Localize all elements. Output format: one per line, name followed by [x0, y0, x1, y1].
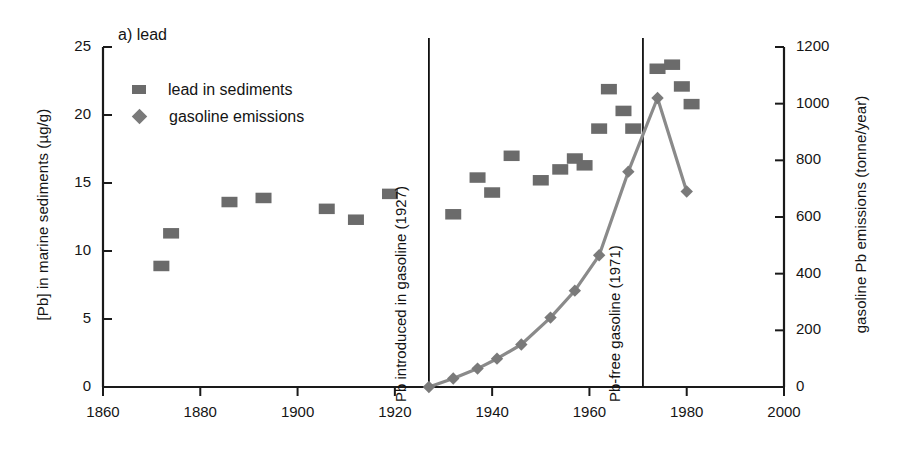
y-tick-label-right: 1200	[796, 37, 852, 54]
y-tick-label-left: 15	[47, 173, 91, 190]
legend-item: gasoline emissions	[132, 107, 304, 126]
x-tick-label: 1880	[165, 403, 235, 420]
sediment-point	[153, 261, 169, 272]
emissions-point	[447, 372, 459, 384]
sediment-point	[591, 123, 607, 134]
emissions-point	[622, 165, 634, 177]
y-tick-label-left: 5	[47, 309, 91, 326]
emissions-line	[429, 98, 687, 387]
annotation-label: Pb introduced in gasoline (1927)	[392, 186, 409, 402]
y-tick-label-right: 0	[796, 377, 852, 394]
sediment-point	[615, 106, 631, 117]
y-tick-label-left: 25	[47, 37, 91, 54]
x-tick-label: 1900	[263, 403, 333, 420]
x-tick-label: 1980	[652, 403, 722, 420]
sediment-point	[601, 84, 617, 95]
sediment-point	[221, 197, 237, 208]
figure-lead-chart: [Pb] in marine sediments (µg/g) gasoline…	[0, 0, 898, 456]
legend-label: lead in sediments	[168, 81, 293, 98]
emissions-point	[471, 362, 483, 374]
sediment-point	[319, 204, 335, 215]
sediment-point	[445, 209, 461, 220]
y-tick-label-left: 20	[47, 105, 91, 122]
legend-label: gasoline emissions	[169, 108, 304, 125]
sediment-point	[650, 64, 666, 74]
x-tick-label: 1920	[360, 403, 430, 420]
sediment-point	[552, 164, 568, 175]
y-tick-label-right: 1000	[796, 94, 852, 111]
sediment-point	[256, 193, 272, 204]
sediment-point	[625, 123, 641, 134]
square-marker-icon	[132, 85, 146, 94]
y-tick-label-left: 0	[47, 377, 91, 394]
plot-canvas	[0, 0, 898, 456]
sediment-point	[348, 214, 364, 225]
sediment-point	[504, 151, 520, 162]
y-tick-label-left: 10	[47, 241, 91, 258]
legend-item: lead in sediments	[132, 80, 293, 99]
x-tick-label: 1940	[457, 403, 527, 420]
y-tick-label-right: 600	[796, 207, 852, 224]
x-tick-label: 1960	[554, 403, 624, 420]
y-tick-label-right: 800	[796, 150, 852, 167]
x-tick-label: 1860	[68, 403, 138, 420]
emissions-point	[423, 381, 435, 393]
sediment-point	[684, 99, 700, 110]
sediment-point	[484, 187, 500, 198]
y-tick-label-right: 400	[796, 264, 852, 281]
x-tick-label: 2000	[749, 403, 819, 420]
emissions-point	[651, 92, 663, 104]
sediment-point	[674, 81, 690, 92]
y-tick-label-right: 200	[796, 320, 852, 337]
sediment-point	[533, 175, 549, 186]
sediment-point	[577, 160, 593, 171]
sediment-point	[664, 59, 680, 70]
emissions-point	[681, 185, 693, 197]
diamond-marker-icon	[132, 109, 148, 125]
annotation-label: Pb-free gasoline (1971)	[606, 245, 623, 402]
sediment-point	[163, 228, 179, 239]
sediment-point	[470, 172, 486, 183]
